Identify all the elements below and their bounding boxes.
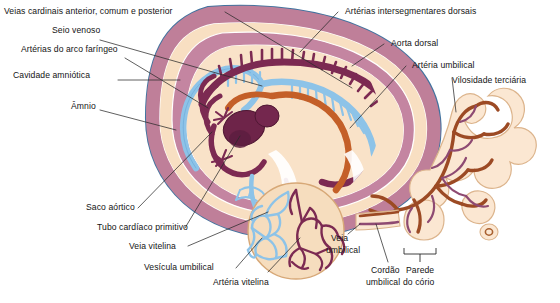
villus-cross-section — [480, 224, 498, 240]
embryonic-circulation-diagram: Veias cardinais anterior, comum e poster… — [0, 0, 560, 303]
label-vitelline-artery: Artéria vitelina — [213, 277, 269, 288]
umbilical-vesicle — [248, 183, 344, 279]
label-umbilical-vesicle: Vesícula umbilical — [144, 262, 214, 273]
label-amnion: Âmnio — [71, 101, 96, 112]
label-tertiary-villus: Vilosidade terciária — [452, 75, 526, 86]
label-amniotic-cavity: Cavidade amniótica — [13, 70, 90, 81]
ventricle — [229, 130, 251, 148]
label-chorion-wall-line1: Parede — [406, 265, 434, 276]
label-aortic-sac: Saco aórtico — [86, 202, 135, 213]
label-umbilical-artery: Artéria umbilical — [412, 60, 475, 71]
umbilical-cord — [356, 210, 400, 230]
label-sinus-venosus: Seio venoso — [52, 25, 100, 36]
label-pharyngeal-arch-arteries: Artérias do arco faríngeo — [21, 44, 118, 55]
label-chorion-wall-line2: do cório — [403, 277, 434, 288]
label-vitelline-vein: Veia vitelina — [129, 241, 176, 252]
label-umbilical-cord-line2: umbilical — [366, 277, 400, 288]
label-umbilical-vein-line2: umbilical — [326, 245, 360, 256]
chorion-wall-bracket — [404, 248, 436, 262]
label-primitive-heart-tube: Tubo cardíaco primitivo — [97, 222, 188, 233]
label-umbilical-cord-line1: Cordão — [371, 265, 400, 276]
label-umbilical-vein-line1: Veia — [331, 233, 348, 244]
bulbus-cordis — [255, 105, 279, 127]
label-dorsal-intersegmental-arteries: Artérias intersegmentares dorsais — [345, 6, 476, 17]
label-dorsal-aorta: Aorta dorsal — [391, 38, 438, 49]
label-cardinal-veins: Veias cardinais anterior, comum e poster… — [4, 6, 173, 17]
